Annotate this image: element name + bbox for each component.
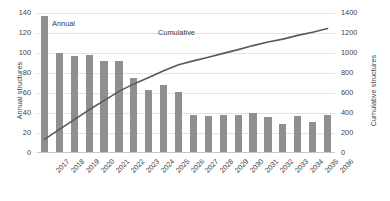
x-tick-2034: 2034 xyxy=(307,157,325,175)
x-tick-2017: 2017 xyxy=(54,157,72,175)
y-left-tick-0: 0 xyxy=(5,149,31,156)
y-right-tick-800: 800 xyxy=(341,69,371,76)
y-right-tick-1200: 1200 xyxy=(341,29,371,36)
y-left-tick-40: 40 xyxy=(5,109,31,116)
x-tick-2025: 2025 xyxy=(173,157,191,175)
y-right-tick-400: 400 xyxy=(341,109,371,116)
y-left-tick-140: 140 xyxy=(5,9,31,16)
x-tick-2032: 2032 xyxy=(278,157,296,175)
x-tick-2027: 2027 xyxy=(203,157,221,175)
y-right-tick-200: 200 xyxy=(341,129,371,136)
cumulative-line-path xyxy=(44,29,327,140)
y-left-tick-80: 80 xyxy=(5,69,31,76)
y-left-tick-20: 20 xyxy=(5,129,31,136)
x-tick-2029: 2029 xyxy=(233,157,251,175)
y-left-tick-120: 120 xyxy=(5,29,31,36)
x-tick-2024: 2024 xyxy=(158,157,176,175)
chart-container: Annual structures Cumulative structures … xyxy=(0,0,390,201)
x-tick-2021: 2021 xyxy=(114,157,132,175)
x-tick-2030: 2030 xyxy=(248,157,266,175)
x-tick-2031: 2031 xyxy=(263,157,281,175)
x-tick-2036: 2036 xyxy=(337,157,355,175)
cumulative-series-label: Cumulative xyxy=(158,28,195,37)
y-right-tick-1400: 1400 xyxy=(341,9,371,16)
y-right-tick-0: 0 xyxy=(341,149,371,156)
y-right-tick-600: 600 xyxy=(341,89,371,96)
x-tick-2022: 2022 xyxy=(129,157,147,175)
y-right-tick-1000: 1000 xyxy=(341,49,371,56)
x-tick-2020: 2020 xyxy=(99,157,117,175)
x-axis-baseline xyxy=(37,152,335,153)
x-tick-2033: 2033 xyxy=(293,157,311,175)
x-tick-2028: 2028 xyxy=(218,157,236,175)
x-tick-2019: 2019 xyxy=(84,157,102,175)
x-tick-2035: 2035 xyxy=(322,157,340,175)
x-tick-2018: 2018 xyxy=(69,157,87,175)
y-left-tick-100: 100 xyxy=(5,49,31,56)
y-left-tick-60: 60 xyxy=(5,89,31,96)
x-tick-2023: 2023 xyxy=(144,157,162,175)
annual-series-label: Annual xyxy=(52,19,75,28)
